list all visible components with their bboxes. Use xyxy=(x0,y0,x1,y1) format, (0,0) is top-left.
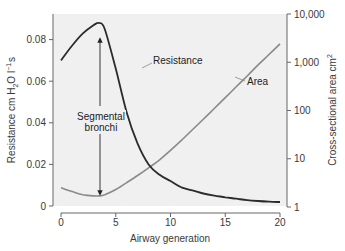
y2-tick-label: 1,000 xyxy=(294,57,319,68)
left-y-axis xyxy=(49,14,53,206)
area-label: Area xyxy=(247,76,269,87)
y-tick-label: 0.02 xyxy=(27,159,47,170)
segmental-label-line1: Segmental xyxy=(77,111,125,122)
segmental-label-line2: bronchi xyxy=(85,122,118,133)
x-tick-label: 0 xyxy=(58,217,64,228)
x-tick-label: 20 xyxy=(274,217,286,228)
y-tick-label: 0.06 xyxy=(27,76,47,87)
right-y-tick-labels: 1 10 100 1,000 10,000 xyxy=(294,9,325,213)
chart: 0 0.02 0.04 0.06 0.08 1 10 100 1,000 10,… xyxy=(0,0,345,251)
y2-tick-label: 10 xyxy=(294,153,306,164)
x-tick-label: 5 xyxy=(113,217,119,228)
y2-tick-label: 100 xyxy=(294,105,311,116)
y2-tick-label: 1 xyxy=(294,202,300,213)
x-tick-label: 15 xyxy=(220,217,232,228)
x-axis-title: Airway generation xyxy=(130,233,210,244)
y-axis-title: Resistance cm H2O l−1s xyxy=(5,57,19,163)
right-y-axis xyxy=(287,14,291,207)
y2-axis-title: Cross-sectional area cm2 xyxy=(326,54,338,166)
y-tick-label: 0.04 xyxy=(27,117,47,128)
left-y-tick-labels: 0 0.02 0.04 0.06 0.08 xyxy=(27,34,47,211)
x-tick-labels: 0 5 10 15 20 xyxy=(58,217,286,228)
y-tick-label: 0 xyxy=(40,201,46,212)
x-tick-label: 10 xyxy=(165,217,177,228)
y2-tick-label: 10,000 xyxy=(294,9,325,20)
y-tick-label: 0.08 xyxy=(27,34,47,45)
resistance-label: Resistance xyxy=(153,55,203,66)
